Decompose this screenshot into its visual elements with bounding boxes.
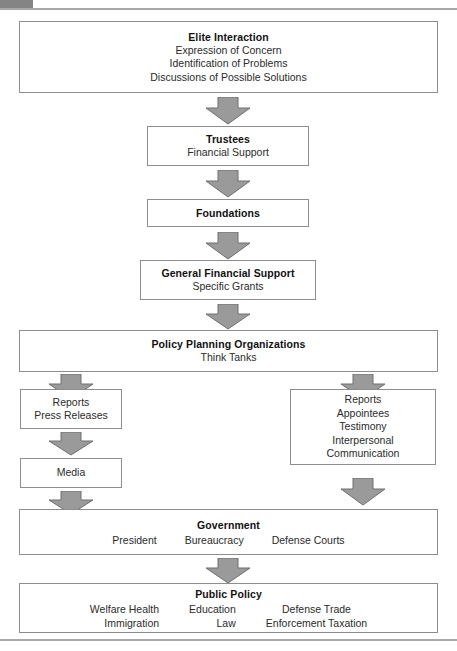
arrow-trustees-to-foundations <box>205 170 251 198</box>
node-policy-planning-line-1: Think Tanks <box>201 351 257 365</box>
public-policy-column-1-line-1: Welfare Health <box>90 602 159 616</box>
node-reports-appointees-line-5: Communication <box>327 447 400 461</box>
node-media-line-1: Media <box>57 466 86 480</box>
arrow-reports-left-to-media <box>48 432 94 456</box>
node-general-financial-support-line-1: Specific Grants <box>192 280 263 294</box>
node-elite-interaction-line-2: Identification of Problems <box>170 57 288 71</box>
page-footer-rule <box>0 639 457 641</box>
node-reports-appointees-line-3: Testimony <box>339 420 386 434</box>
arrow-general-support-to-policy-planning <box>205 304 251 330</box>
node-public-policy-columns: Welfare Health Immigration Education Law… <box>20 601 437 630</box>
government-column-3: Defense Courts <box>272 533 345 547</box>
node-reports-press-releases-line-1: Reports <box>53 396 90 410</box>
public-policy-column-1: Welfare Health Immigration <box>90 602 159 630</box>
public-policy-column-3: Defense Trade Enforcement Taxation <box>266 602 367 630</box>
arrow-reports-right-to-government <box>340 478 386 506</box>
node-trustees-title: Trustees <box>206 132 250 146</box>
node-elite-interaction: Elite Interaction Expression of Concern … <box>19 21 438 93</box>
node-media: Media <box>20 458 122 488</box>
node-government-title: Government <box>197 518 260 532</box>
node-trustees: Trustees Financial Support <box>147 126 309 166</box>
node-policy-planning-title: Policy Planning Organizations <box>151 337 305 351</box>
node-reports-press-releases: Reports Press Releases <box>20 389 122 429</box>
arrow-government-to-public-policy <box>205 558 251 584</box>
node-elite-interaction-title: Elite Interaction <box>188 30 268 44</box>
public-policy-column-2-line-1: Education <box>189 602 236 616</box>
node-general-financial-support-title: General Financial Support <box>161 266 294 280</box>
arrow-foundations-to-general-support <box>205 232 251 260</box>
node-reports-appointees-line-1: Reports <box>345 393 382 407</box>
node-reports-appointees: Reports Appointees Testimony Interperson… <box>290 389 436 465</box>
public-policy-column-3-line-1: Defense Trade <box>266 602 367 616</box>
node-elite-interaction-line-1: Expression of Concern <box>175 44 281 58</box>
public-policy-column-2-line-2: Law <box>189 616 236 630</box>
node-policy-planning-organizations: Policy Planning Organizations Think Tank… <box>19 330 438 372</box>
node-trustees-line-1: Financial Support <box>187 146 269 160</box>
public-policy-column-2: Education Law <box>189 602 236 630</box>
node-public-policy-title: Public Policy <box>195 587 262 601</box>
node-public-policy: Public Policy Welfare Health Immigration… <box>19 583 438 633</box>
node-reports-press-releases-line-2: Press Releases <box>34 409 108 423</box>
arrow-elite-to-trustees <box>205 97 251 125</box>
government-column-2: Bureaucracy <box>185 533 244 547</box>
node-general-financial-support: General Financial Support Specific Grant… <box>140 260 316 300</box>
government-column-1: President <box>112 533 156 547</box>
node-elite-interaction-line-3: Discussions of Possible Solutions <box>150 71 306 85</box>
node-reports-appointees-line-2: Appointees <box>337 407 390 421</box>
node-government: Government President Bureaucracy Defense… <box>19 509 438 555</box>
diagram-canvas: Elite Interaction Expression of Concern … <box>0 0 457 651</box>
node-foundations-title: Foundations <box>196 206 260 220</box>
node-government-columns: President Bureaucracy Defense Courts <box>20 532 437 547</box>
node-reports-appointees-line-4: Interpersonal <box>332 434 393 448</box>
public-policy-column-3-line-2: Enforcement Taxation <box>266 616 367 630</box>
page-header-rule <box>0 8 457 10</box>
node-foundations: Foundations <box>147 199 309 227</box>
public-policy-column-1-line-2: Immigration <box>90 616 159 630</box>
